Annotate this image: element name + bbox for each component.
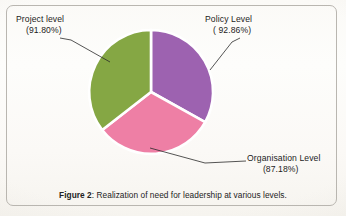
pie-label-project-level-percent: (91.80%) <box>16 25 64 36</box>
pie-chart: Project level (91.80%) Policy Level ( 92… <box>0 0 346 216</box>
pie-label-policy-level: Policy Level ( 92.86%) <box>205 14 252 36</box>
leader-line-policy-level <box>210 38 240 70</box>
figure-number: Figure 2 <box>59 190 92 200</box>
figure-caption-separator: : <box>92 190 94 200</box>
pie-label-policy-level-name: Policy Level <box>205 14 252 24</box>
pie-label-organisation-level: Organisation Level (87.18%) <box>247 153 320 175</box>
pie-label-policy-level-percent: ( 92.86%) <box>205 25 252 36</box>
pie-label-organisation-level-name: Organisation Level <box>247 153 320 163</box>
figure-caption-text: Realization of need for leadership at va… <box>97 190 287 200</box>
pie-label-organisation-level-percent: (87.18%) <box>247 164 320 175</box>
figure-caption: Figure 2: Realization of need for leader… <box>0 190 346 200</box>
figure-page: Project level (91.80%) Policy Level ( 92… <box>0 0 346 216</box>
pie-label-project-level: Project level (91.80%) <box>16 14 64 36</box>
pie-label-project-level-name: Project level <box>16 14 64 24</box>
